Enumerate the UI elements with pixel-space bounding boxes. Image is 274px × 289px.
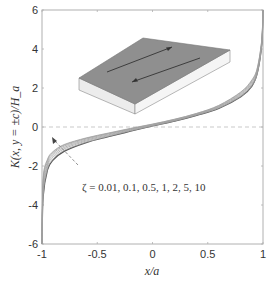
annotation-arrow-head — [52, 137, 57, 144]
x-tick-label: 1 — [260, 248, 266, 260]
x-tick-label: 0.5 — [200, 248, 215, 260]
y-tick-label: 6 — [32, 4, 38, 16]
y-tick-label: 4 — [32, 43, 38, 55]
figure: -1-0.500.51-6-4-20246 ζ = 0.01, 0.1, 0.5… — [0, 0, 274, 289]
inset-slab — [79, 38, 230, 114]
y-tick-label: -2 — [28, 160, 38, 172]
x-tick-label: -1 — [37, 248, 47, 260]
y-tick-label: -4 — [28, 199, 38, 211]
y-tick-label: -6 — [28, 238, 38, 250]
x-tick-label: -0.5 — [88, 248, 107, 260]
x-tick-label: 0 — [149, 248, 155, 260]
x-axis-label: x/a — [144, 264, 160, 278]
zeta-annotation: ζ = 0.01, 0.1, 0.5, 1, 2, 5, 10 — [82, 181, 206, 194]
y-axis-label: K(x, y = ±c)/H_a — [8, 86, 22, 170]
y-tick-label: 2 — [32, 82, 38, 94]
y-tick-label: 0 — [32, 121, 38, 133]
